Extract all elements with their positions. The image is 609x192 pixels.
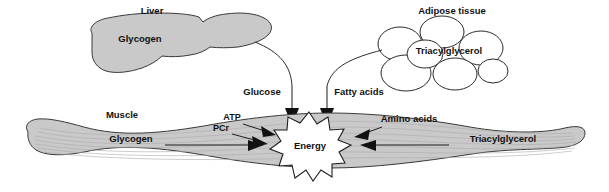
liver-glycogen-label: Glycogen	[118, 33, 161, 44]
diagram-canvas: Liver Glycogen Adipose tissue Triacylgly…	[0, 0, 609, 192]
liver-title-label: Liver	[141, 5, 164, 16]
pcr-label: PCr	[213, 123, 230, 133]
atp-label: ATP	[223, 112, 240, 122]
muscle-glycogen-label: Glycogen	[109, 133, 152, 144]
adipose-triacylglycerol-label: Triacylglycerol	[416, 45, 483, 56]
liver-group: Liver Glycogen	[91, 5, 272, 72]
muscle-title-label: Muscle	[106, 109, 138, 120]
energy-label: Energy	[294, 140, 327, 151]
adipose-group: Adipose tissue Triacylglycerol	[378, 5, 508, 91]
muscle-triacylglycerol-label: Triacylglycerol	[470, 133, 537, 144]
liver-to-muscle-connector	[255, 42, 292, 86]
adipose-to-muscle-connector	[327, 50, 382, 86]
amino-acids-label: Amino acids	[381, 113, 438, 124]
fatty-acids-label: Fatty acids	[334, 86, 384, 97]
muscle-group: Muscle Energy ATP PCr Glycogen	[26, 109, 585, 181]
energy-metabolism-diagram: Liver Glycogen Adipose tissue Triacylgly…	[0, 0, 609, 192]
adipocyte-6	[478, 59, 508, 83]
adipose-title-label: Adipose tissue	[418, 5, 486, 16]
glucose-label: Glucose	[243, 86, 281, 97]
